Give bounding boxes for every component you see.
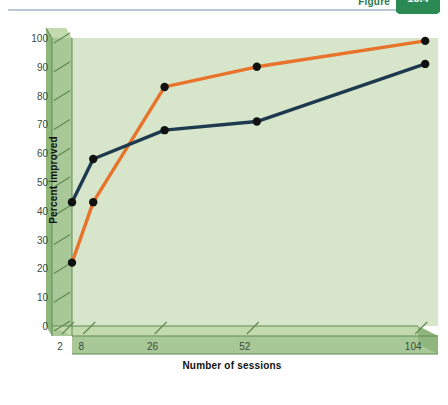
data-point-marker (89, 198, 97, 206)
data-point-marker (89, 155, 97, 163)
plot-background (72, 38, 438, 326)
x-tick-label: 2 (57, 341, 63, 352)
figure-number-badge: 13.4 (396, 0, 440, 12)
y-tick-label: 40 (37, 206, 49, 217)
data-point-marker (160, 83, 168, 91)
x-axis-top-face (52, 326, 438, 336)
x-tick-label: 52 (239, 341, 251, 352)
y-tick-label: 10 (37, 292, 49, 303)
y-tick-label: 50 (37, 177, 49, 188)
y-tick-label: 100 (31, 33, 48, 44)
data-point-marker (68, 198, 76, 206)
banner-divider (8, 9, 440, 11)
figure-banner: Figure 13.4 (0, 0, 448, 14)
x-tick-label: 26 (147, 341, 159, 352)
data-point-marker (160, 126, 168, 134)
x-axis-front-face (72, 336, 438, 354)
line-chart: 0102030405060708090100 282652104 (22, 28, 442, 358)
data-point-marker (68, 258, 76, 266)
y-tick-label: 60 (37, 148, 49, 159)
figure-label: Figure (358, 0, 390, 7)
y-tick-label: 80 (37, 91, 49, 102)
y-tick-label: 30 (37, 235, 49, 246)
data-point-marker (253, 117, 261, 125)
x-tick-label: 104 (405, 341, 422, 352)
data-point-marker (421, 60, 429, 68)
y-tick-label: 70 (37, 119, 49, 130)
data-point-marker (421, 37, 429, 45)
y-tick-label: 20 (37, 263, 49, 274)
y-tick-label: 0 (42, 321, 48, 332)
figure-badge-arrow-icon (396, 12, 440, 14)
y-axis-title: Percent improved (48, 120, 59, 240)
chart-container: 0102030405060708090100 282652104 Percent… (22, 28, 442, 378)
y-tick-label: 90 (37, 62, 49, 73)
x-tick-label: 8 (78, 341, 84, 352)
data-point-marker (253, 63, 261, 71)
x-axis-title: Number of sessions (22, 360, 442, 371)
